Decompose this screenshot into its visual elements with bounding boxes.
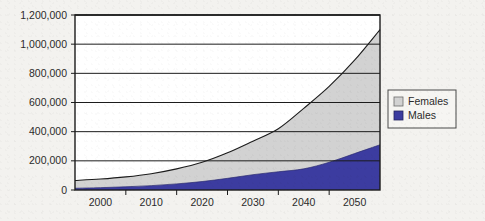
x-axis-tick-label: 2040 <box>292 196 316 208</box>
y-axis-tick-label: 400,000 <box>29 125 67 137</box>
y-axis-tick-label: 600,000 <box>29 96 67 108</box>
x-axis-tick-label: 2010 <box>140 196 164 208</box>
stacked-area-chart: 0200,000400,000600,000800,0001,000,0001,… <box>0 0 485 221</box>
y-axis-tick-label: 200,000 <box>29 154 67 166</box>
x-axis-tick-label: 2050 <box>343 196 367 208</box>
legend-swatch-females <box>394 97 403 106</box>
legend-label-males: Males <box>408 109 436 121</box>
legend-label-females: Females <box>408 95 448 107</box>
y-axis-tick-label: 1,000,000 <box>20 38 67 50</box>
legend: Females Males <box>388 90 456 128</box>
legend-swatch-males <box>394 111 403 120</box>
chart-canvas: 0200,000400,000600,000800,0001,000,0001,… <box>0 0 485 221</box>
x-axis-tick-label: 2000 <box>89 196 113 208</box>
y-axis-tick-label: 0 <box>61 184 67 196</box>
x-axis-tick-label: 2030 <box>241 196 265 208</box>
y-axis-tick-label: 800,000 <box>29 67 67 79</box>
x-axis-tick-label: 2020 <box>190 196 214 208</box>
y-axis-tick-label: 1,200,000 <box>20 9 67 21</box>
